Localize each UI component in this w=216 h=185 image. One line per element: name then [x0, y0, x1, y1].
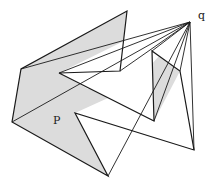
point-q-label: q [198, 10, 205, 21]
polygon-p-label: P [53, 115, 60, 126]
visibility-diagram [0, 0, 216, 185]
